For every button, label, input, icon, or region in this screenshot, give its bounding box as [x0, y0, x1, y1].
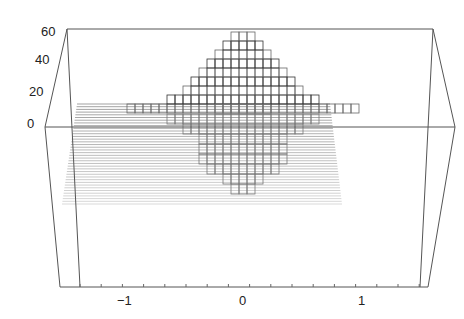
x-tick-1: 1	[358, 293, 365, 308]
z-tick-0: 0	[27, 116, 34, 131]
x-tick-minus1: −1	[117, 293, 132, 308]
z-tick-20: 20	[29, 84, 43, 99]
surface-plot	[0, 0, 464, 319]
z-tick-40: 40	[35, 52, 49, 67]
x-tick-0: 0	[239, 293, 246, 308]
z-tick-60: 60	[41, 24, 55, 39]
